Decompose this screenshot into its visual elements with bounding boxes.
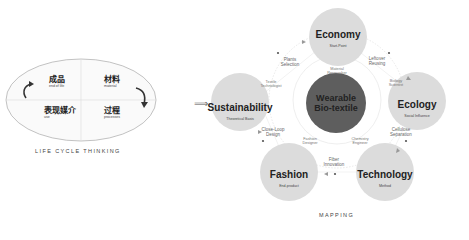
- label-line: Innovation: [324, 162, 345, 167]
- label-line: Reusing: [369, 61, 386, 66]
- node-ecology: Ecology Social Influence: [398, 99, 437, 118]
- label-line: Technologist: [260, 84, 281, 88]
- label-line: Scientist: [389, 83, 403, 87]
- node-economy: Economy Start-Point: [315, 29, 360, 48]
- label-plants-selection: Plants Selection: [281, 57, 300, 67]
- label-line: Selection: [281, 62, 300, 67]
- label-fiber-innovation: Fiber Innovation: [324, 157, 345, 167]
- node-title: Sustainability: [207, 102, 272, 113]
- node-title: Technology: [357, 169, 412, 180]
- label-cellulose-separation: Cellulose Separation: [390, 127, 412, 137]
- center-line-2: Bio-textile: [314, 103, 358, 113]
- node-subtitle: Social Influence: [398, 114, 437, 118]
- node-title: Fashion: [270, 169, 308, 180]
- node-subtitle: Theoretical Basis: [207, 117, 272, 121]
- label-close-loop-design: Close-Loop Design: [261, 127, 284, 137]
- label-chemistry-engineer: Chemistry Engineer: [351, 137, 368, 146]
- mapping-caption: MAPPING: [319, 212, 354, 218]
- label-line: Design: [261, 132, 284, 137]
- node-subtitle: Start-Point: [315, 44, 360, 48]
- label-line: Engineer: [351, 141, 368, 145]
- node-subtitle: Method: [357, 184, 412, 188]
- label-textile-technologist: Textile Technologist: [260, 80, 281, 89]
- node-fashion: Fashion End-product: [270, 169, 308, 188]
- node-technology: Technology Method: [357, 169, 412, 188]
- node-sustainability: Sustainability Theoretical Basis: [207, 102, 272, 121]
- label-biology-scientist: Biology Scientist: [389, 79, 403, 88]
- label-line: Designer: [302, 141, 317, 145]
- label-leftover-reusing: Leftover Reusing: [369, 56, 386, 66]
- node-title: Ecology: [398, 99, 437, 110]
- double-arrow-icon: ⟹: [194, 99, 208, 109]
- center-node-wearable-bio-textile: Wearable Bio-textile: [314, 93, 358, 113]
- label-line: Separation: [390, 132, 412, 137]
- node-subtitle: End-product: [270, 184, 308, 188]
- center-line-1: Wearable: [314, 93, 358, 103]
- label-material-researcher: Material Researcher: [327, 67, 347, 76]
- label-fashion-designer: Fashion Designer: [302, 137, 317, 146]
- node-title: Economy: [315, 29, 360, 40]
- label-line: Researcher: [327, 71, 347, 75]
